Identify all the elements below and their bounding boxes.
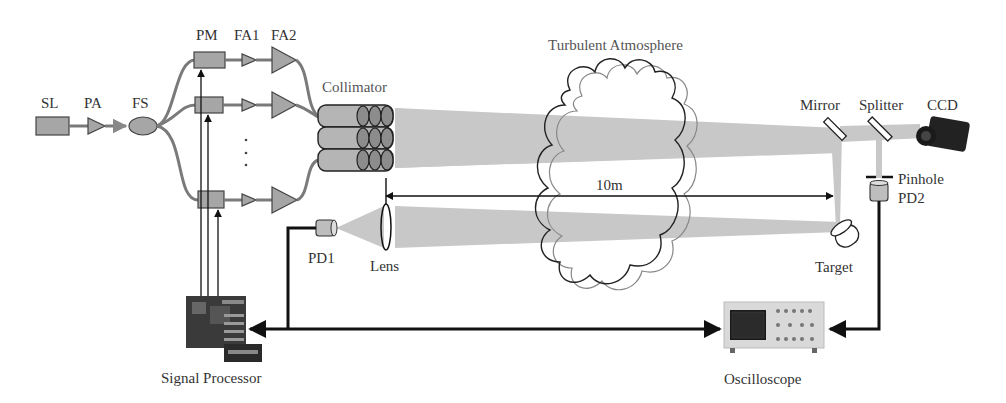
fa1-chn	[242, 194, 256, 206]
label-splitter: Splitter	[859, 97, 903, 113]
phase-modulator-1	[194, 52, 225, 68]
label-signal-processor: Signal Processor	[161, 370, 261, 386]
oscilloscope-device	[724, 302, 824, 353]
return-beam	[395, 206, 840, 248]
label-fa1: FA1	[234, 27, 260, 43]
label-ccd: CCD	[927, 97, 958, 113]
label-sl: SL	[41, 95, 59, 111]
label-pm: PM	[196, 27, 218, 43]
label-fa2: FA2	[271, 27, 297, 43]
label-pinhole: Pinhole	[898, 171, 944, 187]
fa1-ch2	[242, 99, 256, 111]
splitter-to-pd2-beam	[876, 140, 882, 178]
label-oscilloscope: Oscilloscope	[724, 371, 802, 387]
lens-to-pd1-beam	[336, 206, 384, 248]
fa2-chn	[272, 187, 297, 213]
turbulent-atmosphere-cloud	[536, 59, 698, 290]
label-pa: PA	[84, 95, 102, 111]
pd1-signal-line	[288, 228, 316, 329]
seed-laser	[36, 117, 69, 135]
label-target: Target	[815, 259, 854, 275]
label-fs: FS	[132, 95, 149, 111]
label-pd2: PD2	[898, 190, 925, 206]
label-distance: 10m	[596, 177, 623, 193]
mirror-to-target-beam	[831, 132, 842, 228]
outgoing-beam-main	[395, 108, 840, 168]
fiber-splitter	[129, 117, 157, 135]
phase-modulator-2	[195, 97, 223, 113]
pd2-detector	[870, 181, 888, 202]
label-turbulent-atmosphere: Turbulent Atmosphere	[548, 37, 683, 53]
fa1-ch1	[242, 54, 256, 66]
fa2-ch2	[272, 92, 296, 118]
fa2-ch1	[272, 47, 296, 73]
label-collimator: Collimator	[322, 79, 387, 95]
label-mirror: Mirror	[800, 97, 840, 113]
label-lens: Lens	[370, 258, 399, 274]
ccd-camera	[916, 116, 970, 152]
pd1-detector	[316, 220, 337, 236]
preamplifier	[88, 118, 105, 134]
phase-modulator-n	[198, 191, 224, 208]
label-pd1: PD1	[308, 250, 335, 266]
collimator-array	[318, 105, 393, 171]
setup-diagram: SL PA FS PM FA1 FA2 Collimator Turbulent…	[0, 0, 1006, 403]
